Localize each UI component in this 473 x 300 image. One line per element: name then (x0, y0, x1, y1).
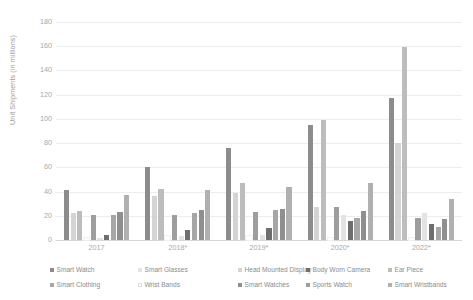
bar[interactable] (436, 227, 441, 240)
bar[interactable] (422, 213, 427, 240)
bar[interactable] (165, 236, 170, 240)
bar-group (137, 22, 218, 240)
bar[interactable] (124, 195, 129, 240)
bar[interactable] (104, 235, 109, 240)
legend-item-label: Wrist Bands (145, 281, 180, 289)
bar[interactable] (233, 193, 238, 240)
bar[interactable] (314, 207, 319, 240)
legend-item[interactable]: Smart Wristbands (388, 281, 465, 289)
legend-item-label: Sports Watch (313, 281, 352, 289)
legend-item-label: Smart Wristbands (395, 281, 447, 289)
bar[interactable] (226, 148, 231, 240)
bar[interactable] (260, 235, 265, 240)
legend-item[interactable]: Sports Watch (306, 281, 388, 289)
legend-item[interactable]: Smart Glasses (138, 266, 238, 274)
bar[interactable] (71, 213, 76, 240)
bar[interactable] (199, 210, 204, 240)
bar[interactable] (286, 187, 291, 240)
legend-item-label: Head Mounted Display (245, 266, 312, 274)
bar[interactable] (409, 238, 414, 240)
legend-item[interactable]: Smart Watch (50, 266, 138, 274)
bar[interactable] (205, 190, 210, 240)
bar[interactable] (158, 189, 163, 240)
legend-swatch-icon (238, 268, 242, 272)
bar[interactable] (402, 47, 407, 240)
bar[interactable] (280, 209, 285, 240)
bar[interactable] (334, 207, 339, 240)
bar[interactable] (77, 211, 82, 240)
bar[interactable] (308, 125, 313, 240)
legend-swatch-icon (238, 283, 242, 287)
bar[interactable] (152, 196, 157, 240)
legend-item-label: Smart Watch (57, 266, 95, 274)
bar[interactable] (341, 215, 346, 240)
bar[interactable] (117, 212, 122, 240)
legend-item[interactable]: Ear Piece (388, 266, 465, 274)
bar[interactable] (266, 228, 271, 240)
x-tick-label: 2018* (168, 243, 187, 252)
legend-item[interactable]: Head Mounted Display (238, 266, 306, 274)
legend-swatch-icon (388, 283, 392, 287)
legend-item[interactable]: Smart Watches (238, 281, 306, 289)
bar[interactable] (192, 213, 197, 240)
bar[interactable] (253, 212, 258, 240)
y-tick-label: 20 (30, 212, 52, 220)
bar-group (218, 22, 299, 240)
bar[interactable] (354, 218, 359, 240)
bar[interactable] (185, 230, 190, 240)
y-tick-label: 60 (30, 163, 52, 171)
y-tick-label: 140 (30, 66, 52, 74)
plot-area (56, 22, 462, 240)
y-tick-label: 40 (30, 188, 52, 196)
legend-item-label: Ear Piece (395, 266, 424, 274)
gridline (56, 240, 462, 241)
legend-swatch-icon (306, 283, 310, 287)
bar[interactable] (429, 224, 434, 240)
y-tick-label: 160 (30, 42, 52, 50)
bar[interactable] (240, 183, 245, 240)
y-tick-label: 180 (30, 18, 52, 26)
legend-item-label: Smart Glasses (145, 266, 188, 274)
x-tick-label: 2017 (89, 243, 105, 252)
y-tick-label: 80 (30, 139, 52, 147)
bar[interactable] (246, 236, 251, 240)
bar[interactable] (321, 120, 326, 240)
y-tick-label: 0 (30, 236, 52, 244)
y-tick-label: 100 (30, 115, 52, 123)
bar[interactable] (64, 190, 69, 240)
bar[interactable] (395, 143, 400, 240)
bar[interactable] (91, 215, 96, 240)
bar[interactable] (442, 219, 447, 240)
legend-item-label: Smart Clothing (57, 281, 101, 289)
legend-swatch-icon (50, 268, 54, 272)
legend-swatch-icon (388, 268, 392, 272)
legend-item-label: Body Worn Camera (313, 266, 371, 274)
bar[interactable] (389, 98, 394, 240)
legend-item[interactable]: Wrist Bands (138, 281, 238, 289)
x-tick-label: 2019* (250, 243, 269, 252)
bar[interactable] (348, 221, 353, 240)
bar[interactable] (361, 211, 366, 240)
bar[interactable] (172, 215, 177, 240)
bar[interactable] (273, 210, 278, 240)
bar[interactable] (415, 218, 420, 240)
legend-item[interactable]: Body Worn Camera (306, 266, 388, 274)
bar[interactable] (368, 183, 373, 240)
x-axis-tick-labels: 20172018*2019*2020*2022* (56, 243, 462, 257)
y-axis-tick-labels: 020406080100120140160180 (26, 22, 52, 240)
y-axis-title: Unit Shipments (in millions) (8, 0, 20, 200)
x-tick-label: 2020* (331, 243, 350, 252)
bar[interactable] (179, 236, 184, 240)
legend-swatch-icon (306, 268, 310, 272)
bar[interactable] (97, 238, 102, 240)
y-tick-label: 120 (30, 91, 52, 99)
bar[interactable] (145, 167, 150, 240)
bar-group (381, 22, 462, 240)
bar[interactable] (84, 238, 89, 240)
bar-group (56, 22, 137, 240)
bar-group (300, 22, 381, 240)
bar[interactable] (111, 215, 116, 240)
legend-item[interactable]: Smart Clothing (50, 281, 138, 289)
bar[interactable] (449, 199, 454, 240)
bar[interactable] (328, 238, 333, 240)
